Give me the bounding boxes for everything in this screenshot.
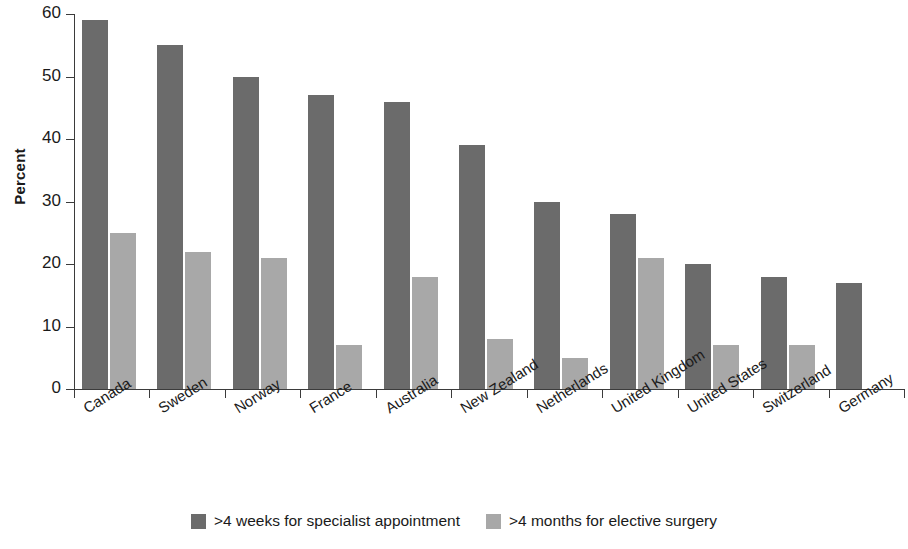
- y-axis-tick: 50: [0, 77, 74, 78]
- bar[interactable]: [157, 45, 183, 389]
- y-axis-title: Percent: [11, 132, 28, 222]
- x-axis-tick-mark: [300, 389, 301, 398]
- bar[interactable]: [261, 258, 287, 389]
- x-axis-tick-mark: [678, 389, 679, 398]
- legend-item[interactable]: >4 months for elective surgery: [486, 512, 717, 530]
- bar-group: [610, 14, 664, 389]
- y-axis-tick: 0: [0, 389, 74, 390]
- legend-label: >4 weeks for specialist appointment: [214, 512, 460, 530]
- x-axis-tick-mark: [149, 389, 150, 398]
- bar[interactable]: [761, 277, 787, 390]
- legend-swatch-icon: [486, 514, 501, 529]
- x-axis-tick-mark: [753, 389, 754, 398]
- chart-legend: >4 weeks for specialist appointment>4 mo…: [0, 512, 908, 530]
- y-axis-tick-label: 40: [42, 128, 61, 148]
- bar[interactable]: [308, 95, 334, 389]
- bar-chart: Percent 0102030405060 CanadaSwedenNorway…: [0, 0, 908, 549]
- bar-group: [534, 14, 588, 389]
- y-axis-tick-mark: [66, 139, 74, 140]
- legend-swatch-icon: [191, 514, 206, 529]
- y-axis-tick: 30: [0, 202, 74, 203]
- bar[interactable]: [384, 102, 410, 390]
- y-axis-tick-label: 10: [42, 316, 61, 336]
- y-axis-tick-label: 20: [42, 253, 61, 273]
- x-axis-tick-mark: [376, 389, 377, 398]
- bar[interactable]: [110, 233, 136, 389]
- y-axis-tick: 60: [0, 14, 74, 15]
- x-axis-tick-mark: [602, 389, 603, 398]
- bar[interactable]: [185, 252, 211, 390]
- bar-group: [384, 14, 438, 389]
- bar[interactable]: [610, 214, 636, 389]
- y-axis-tick-mark: [66, 327, 74, 328]
- legend-label: >4 months for elective surgery: [509, 512, 717, 530]
- bar[interactable]: [233, 77, 259, 390]
- y-axis-tick-mark: [66, 14, 74, 15]
- bar-group: [459, 14, 513, 389]
- bar-group: [685, 14, 739, 389]
- y-axis-tick-mark: [66, 202, 74, 203]
- legend-item[interactable]: >4 weeks for specialist appointment: [191, 512, 460, 530]
- bar[interactable]: [534, 202, 560, 390]
- plot-area: [74, 14, 904, 389]
- bar[interactable]: [82, 20, 108, 389]
- x-axis-tick-mark: [451, 389, 452, 398]
- y-axis-tick-mark: [66, 389, 74, 390]
- x-axis-tick-mark: [225, 389, 226, 398]
- bar-group: [233, 14, 287, 389]
- bar[interactable]: [459, 145, 485, 389]
- x-axis-tick-mark: [527, 389, 528, 398]
- y-axis-tick-label: 50: [42, 66, 61, 86]
- x-axis-tick-mark: [74, 389, 75, 398]
- y-axis-tick: 20: [0, 264, 74, 265]
- bar[interactable]: [412, 277, 438, 390]
- y-axis-tick: 40: [0, 139, 74, 140]
- x-axis-tick-mark: [904, 389, 905, 398]
- x-axis-tick-mark: [829, 389, 830, 398]
- y-axis-tick-mark: [66, 77, 74, 78]
- bar[interactable]: [836, 283, 862, 389]
- bar-group: [157, 14, 211, 389]
- bar-group: [308, 14, 362, 389]
- y-axis-tick: 10: [0, 327, 74, 328]
- y-axis-tick-label: 0: [52, 378, 61, 398]
- bar-group: [82, 14, 136, 389]
- y-axis-tick-label: 60: [42, 3, 61, 23]
- y-axis-tick-label: 30: [42, 191, 61, 211]
- y-axis-tick-mark: [66, 264, 74, 265]
- bar-group: [761, 14, 815, 389]
- bar-group: [836, 14, 890, 389]
